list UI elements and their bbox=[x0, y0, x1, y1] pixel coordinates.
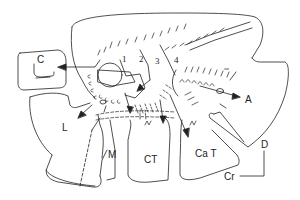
label-ct: CT bbox=[144, 154, 157, 165]
label-a: A bbox=[245, 94, 252, 105]
arrow-to-l bbox=[78, 111, 86, 118]
label-m: M bbox=[108, 149, 116, 160]
label-cat: Ca T bbox=[195, 148, 217, 159]
small-mark: sw bbox=[224, 66, 229, 71]
arrow-down-1 bbox=[127, 106, 133, 113]
region-l-outline bbox=[30, 93, 90, 107]
number-4: 4 bbox=[174, 55, 179, 65]
arrow-down-2 bbox=[160, 116, 166, 123]
outer-outline bbox=[72, 13, 263, 58]
number-2: 2 bbox=[139, 54, 144, 64]
arrow-to-c bbox=[58, 64, 66, 70]
number-1: 1 bbox=[122, 54, 127, 64]
label-l: L bbox=[62, 122, 68, 133]
orientation-axes bbox=[240, 151, 264, 176]
region-ct-outline bbox=[128, 118, 170, 182]
orientation-cranial: Cr bbox=[224, 171, 235, 182]
anatomical-diagram: C L M CT Ca T A 1 2 3 4 sw D Cr bbox=[0, 0, 300, 200]
label-c: C bbox=[37, 54, 44, 65]
orientation-dorsal: D bbox=[261, 139, 268, 150]
arrow-to-a bbox=[232, 93, 240, 99]
arrow-to-cat bbox=[183, 128, 189, 137]
number-3: 3 bbox=[155, 56, 160, 66]
